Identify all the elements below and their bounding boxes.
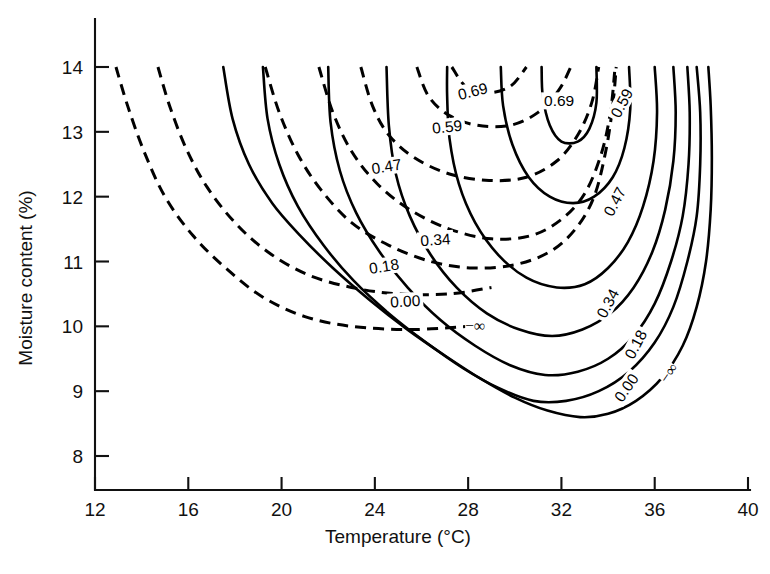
contour-label-text: 0.34 xyxy=(420,230,452,249)
x-tick-label: 12 xyxy=(84,499,105,520)
x-tick-label: 28 xyxy=(458,499,479,520)
contour-label-text: −∞ xyxy=(465,317,485,334)
contour-label: 0.59 xyxy=(606,83,638,123)
x-tick-label: 20 xyxy=(271,499,292,520)
contour-label: −∞ xyxy=(465,317,485,334)
y-tick-label: 12 xyxy=(62,187,83,208)
x-tick-label: 36 xyxy=(644,499,665,520)
contour-label: 0.69 xyxy=(453,79,492,104)
contour-label-text: 0.59 xyxy=(431,117,463,137)
y-tick-label: 11 xyxy=(63,252,83,273)
plot-canvas: 0.690.590.470.340.180.00−∞0.690.590.470.… xyxy=(0,0,770,574)
contour-label-text: 0.69 xyxy=(544,92,574,109)
contour-label: 0.69 xyxy=(541,92,577,109)
x-tick-label: 32 xyxy=(551,499,572,520)
contour-label-text: 0.00 xyxy=(390,292,421,311)
contour-label: 0.00 xyxy=(609,368,644,407)
x-tick-label: 40 xyxy=(737,499,758,520)
y-tick-label: 10 xyxy=(62,316,83,337)
contour-label: 0.59 xyxy=(428,116,466,137)
y-tick-label: 14 xyxy=(62,57,84,78)
y-tick-label: 13 xyxy=(62,122,83,143)
contour-curve xyxy=(387,67,676,336)
contour-label: 0.34 xyxy=(417,230,454,249)
contour-chart-figure: 0.690.590.470.340.180.00−∞0.690.590.470.… xyxy=(0,0,770,574)
contour-labels-layer: 0.690.590.470.340.180.00−∞0.690.590.470.… xyxy=(365,79,681,408)
tick-labels-layer: 1216202428323640891011121314 xyxy=(62,57,759,520)
contour-curve xyxy=(223,67,712,417)
x-tick-label: 24 xyxy=(364,499,386,520)
contour-curve xyxy=(501,67,631,203)
y-tick-label: 8 xyxy=(72,446,83,467)
x-axis-title: Temperature (°C) xyxy=(325,526,471,547)
contour-label-text: 0.47 xyxy=(370,156,402,178)
y-tick-label: 9 xyxy=(72,381,83,402)
contour-label: 0.00 xyxy=(387,292,424,311)
x-tick-label: 16 xyxy=(178,499,199,520)
contour-label: 0.34 xyxy=(592,284,624,324)
contour-label: 0.47 xyxy=(367,155,405,177)
y-axis-title: Moisture content (%) xyxy=(15,190,36,365)
